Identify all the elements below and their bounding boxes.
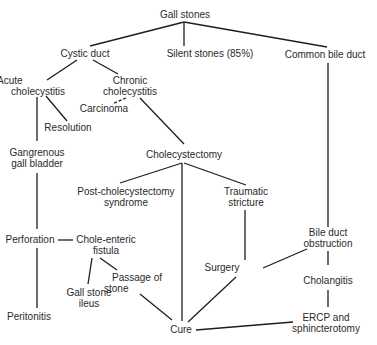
node-surgery: Surgery — [204, 262, 239, 273]
edge-chronic-cholecystectomy — [140, 98, 184, 144]
node-gall-stone-ileus: Gall stone ileus — [66, 287, 111, 309]
edge-cystic-chronic — [93, 60, 118, 74]
gall-stones-flow-diagram: Gall stones Cystic duct Silent stones (8… — [0, 0, 377, 345]
node-bile-duct-obstruction: Bile duct obstruction — [304, 227, 353, 249]
node-post-cholecystectomy-syndrome: Post-cholecystectomy syndrome — [77, 186, 174, 208]
node-ercp-sphincterotomy: ERCP and sphincterotomy — [292, 312, 360, 334]
node-chronic-cholecystitis: Chronic cholecystitis — [103, 75, 157, 97]
edge-passage-cure — [140, 294, 172, 320]
edge-cholecystectomy-postchole — [120, 163, 182, 183]
edge-gallstones-cysticduct — [90, 22, 184, 46]
node-gall-stones: Gall stones — [160, 9, 210, 20]
node-cholecystectomy: Cholecystectomy — [146, 149, 222, 160]
node-cystic-duct: Cystic duct — [61, 48, 110, 59]
edge-obstruction-surgery — [263, 249, 307, 268]
node-acute-cholecystitis: Acute cholecystitis — [11, 75, 65, 97]
node-common-bile-duct: Common bile duct — [285, 49, 366, 60]
edge-cholecystectomy-traumatic — [184, 163, 246, 185]
node-cure: Cure — [170, 324, 192, 335]
node-cholangitis: Cholangitis — [303, 275, 352, 286]
edge-gallstones-cbd — [184, 22, 327, 47]
node-gangrenous-gall-bladder: Gangrenous gall bladder — [9, 147, 64, 169]
node-perforation: Perforation — [6, 234, 55, 245]
edge-fistula-passage — [100, 258, 117, 270]
node-resolution: Resolution — [44, 122, 91, 133]
node-chole-enteric-fistula: Chole-enteric fistula — [76, 234, 135, 256]
node-silent-stones: Silent stones (85%) — [167, 48, 254, 59]
node-traumatic-stricture: Traumatic stricture — [224, 186, 268, 208]
edge-acute-resolution — [46, 96, 67, 121]
node-carcinoma: Carcinoma — [80, 103, 128, 114]
edge-ercp-cure — [196, 322, 293, 330]
node-peritonitis: Peritonitis — [7, 311, 51, 322]
edge-surgery-cure — [188, 277, 236, 322]
node-passage-of-stone: Passage of stone — [112, 272, 162, 294]
edge-fistula-ileus — [88, 258, 92, 284]
